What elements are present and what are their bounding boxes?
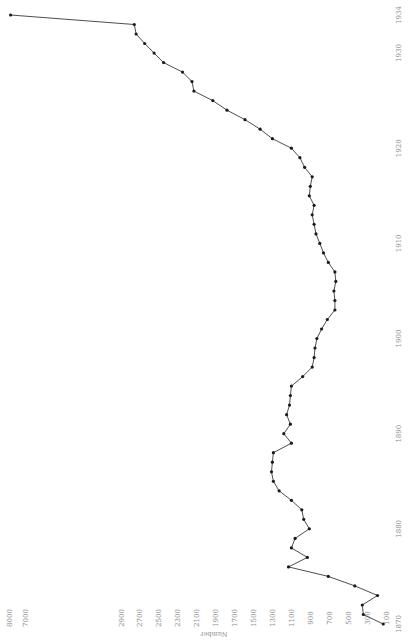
y-tick-label: 2100	[193, 609, 201, 627]
data-point	[162, 61, 165, 64]
data-point	[133, 23, 136, 26]
y-tick-label: 2900	[118, 609, 126, 627]
y-tick-label: 1900	[212, 609, 220, 627]
data-point	[313, 356, 316, 359]
data-point	[353, 584, 356, 587]
data-point	[225, 109, 228, 112]
line-chart: 1003005007009001100130015001700190021002…	[0, 0, 412, 644]
x-tick-label: 1880	[395, 520, 403, 538]
data-point	[287, 565, 290, 568]
x-axis-tick-labels: 18701880189019001910192019301934	[395, 6, 403, 633]
y-tick-label: 1700	[231, 609, 239, 627]
chart-canvas: 1003005007009001100130015001700190021002…	[0, 0, 412, 644]
data-point	[301, 375, 304, 378]
y-tick-label: 1100	[288, 609, 296, 627]
data-point	[243, 118, 246, 121]
data-point	[327, 575, 330, 578]
data-point	[290, 546, 293, 549]
data-point	[272, 480, 275, 483]
data-point	[192, 90, 195, 93]
data-point	[271, 137, 274, 140]
data-point	[311, 175, 314, 178]
data-point	[327, 261, 330, 264]
data-point	[271, 461, 274, 464]
data-point	[361, 603, 364, 606]
data-point	[289, 423, 292, 426]
y-axis-title: Number	[200, 630, 228, 638]
data-point	[308, 527, 311, 530]
data-point	[285, 413, 288, 416]
data-point	[135, 32, 138, 35]
y-tick-label: 2700	[136, 609, 144, 627]
x-tick-label: 1870	[395, 615, 403, 633]
y-tick-label: 900	[307, 611, 315, 624]
data-point	[362, 613, 365, 616]
data-point	[326, 318, 329, 321]
y-tick-label: 1300	[269, 609, 277, 627]
data-point	[313, 223, 316, 226]
data-point	[9, 13, 12, 16]
plot-area	[9, 13, 385, 625]
data-point	[311, 366, 314, 369]
y-axis-tick-labels: 1003005007009001100130015001700190021002…	[6, 609, 391, 627]
data-point	[298, 156, 301, 159]
data-point	[309, 185, 312, 188]
y-tick-label: 500	[345, 611, 353, 624]
x-tick-label: 1934	[395, 6, 403, 24]
data-point	[308, 194, 311, 197]
data-point	[272, 451, 275, 454]
data-point	[314, 232, 317, 235]
data-point	[294, 537, 297, 540]
data-point	[290, 442, 293, 445]
data-point	[278, 489, 281, 492]
y-tick-label: 2500	[155, 609, 163, 627]
data-point	[290, 385, 293, 388]
data-point	[282, 432, 285, 435]
x-tick-label: 1890	[395, 425, 403, 443]
data-point	[311, 213, 314, 216]
x-tick-label: 1930	[395, 44, 403, 62]
data-point	[376, 594, 379, 597]
series-markers	[9, 13, 385, 625]
data-point	[153, 52, 156, 55]
data-point	[302, 518, 305, 521]
data-point	[333, 270, 336, 273]
data-point	[303, 166, 306, 169]
data-point	[382, 622, 385, 625]
data-point	[332, 289, 335, 292]
x-tick-label: 1920	[395, 139, 403, 157]
data-point	[320, 327, 323, 330]
data-point	[270, 470, 273, 473]
data-point	[333, 299, 336, 302]
data-point	[313, 346, 316, 349]
data-point	[306, 556, 309, 559]
data-point	[333, 308, 336, 311]
data-point	[143, 42, 146, 45]
y-tick-label: 1500	[250, 609, 258, 627]
x-tick-label: 1910	[395, 234, 403, 252]
data-point	[290, 499, 293, 502]
data-point	[334, 280, 337, 283]
y-tick-label: 2300	[174, 609, 182, 627]
x-tick-label: 1900	[395, 330, 403, 348]
y-tick-label: 7000	[22, 609, 30, 627]
data-point	[289, 394, 292, 397]
data-point	[313, 204, 316, 207]
data-point	[288, 404, 291, 407]
data-point	[300, 508, 303, 511]
data-point	[315, 337, 318, 340]
data-point	[259, 128, 262, 131]
data-point	[211, 99, 214, 102]
y-tick-label: 700	[326, 611, 334, 624]
data-point	[318, 242, 321, 245]
data-point	[322, 251, 325, 254]
y-tick-label: 8000	[6, 609, 14, 627]
data-point	[181, 71, 184, 74]
data-point	[290, 147, 293, 150]
data-point	[190, 80, 193, 83]
